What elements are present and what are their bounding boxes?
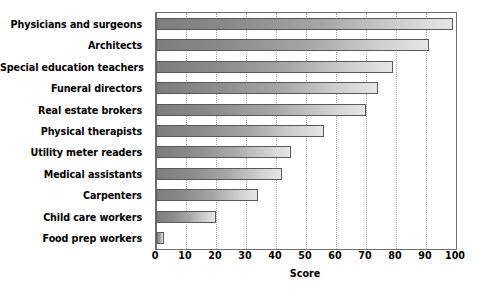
bar <box>156 189 258 201</box>
bar-chart: Physicians and surgeonsArchitectsSpecial… <box>0 0 479 295</box>
category-label: Food prep workers <box>0 234 142 244</box>
x-tick-label: 70 <box>358 250 371 261</box>
bar-band <box>156 56 456 77</box>
bar-band <box>156 120 456 141</box>
x-tick-label: 20 <box>208 250 221 261</box>
gridline <box>456 13 457 249</box>
x-tick-label: 40 <box>268 250 281 261</box>
category-label: Physicians and surgeons <box>0 20 142 30</box>
bar-series <box>156 13 456 249</box>
x-tick-label: 10 <box>178 250 191 261</box>
bar <box>156 104 366 116</box>
bar-band <box>156 185 456 206</box>
bar <box>156 125 324 137</box>
bar <box>156 168 282 180</box>
category-label: Physical therapists <box>0 127 142 137</box>
bar-band <box>156 142 456 163</box>
bar <box>156 18 453 30</box>
bar-band <box>156 206 456 227</box>
category-label: Medical assistants <box>0 170 142 180</box>
x-tick-label: 80 <box>388 250 401 261</box>
category-label: Utility meter readers <box>0 148 142 158</box>
bar <box>156 211 216 223</box>
bar-band <box>156 99 456 120</box>
category-label: Funeral directors <box>0 84 142 94</box>
x-tick-label: 50 <box>298 250 311 261</box>
x-tick-label: 100 <box>445 250 465 261</box>
bar-band <box>156 34 456 55</box>
value-axis-ticks: 0102030405060708090100 <box>155 250 455 264</box>
category-label: Architects <box>0 41 142 51</box>
bar <box>156 39 429 51</box>
category-axis-labels: Physicians and surgeonsArchitectsSpecial… <box>0 14 146 246</box>
bar <box>156 232 164 244</box>
category-label: Real estate brokers <box>0 106 142 116</box>
category-label: Child care workers <box>0 213 142 223</box>
bar-band <box>156 77 456 98</box>
bar <box>156 61 393 73</box>
bar <box>156 82 378 94</box>
category-label: Carpenters <box>0 191 142 201</box>
x-axis-title: Score <box>155 268 455 279</box>
bar-band <box>156 228 456 249</box>
plot-area <box>155 12 457 250</box>
category-label: Special education teachers <box>0 63 142 73</box>
x-tick-label: 60 <box>328 250 341 261</box>
bar <box>156 146 291 158</box>
bar-band <box>156 163 456 184</box>
x-tick-label: 0 <box>152 250 159 261</box>
bar-band <box>156 13 456 34</box>
x-tick-label: 90 <box>418 250 431 261</box>
x-tick-label: 30 <box>238 250 251 261</box>
